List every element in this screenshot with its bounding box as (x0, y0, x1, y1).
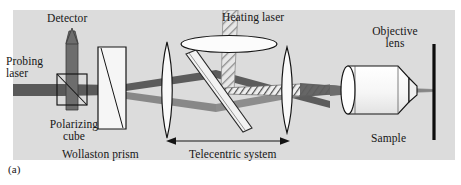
label-objective-lens-line1: Objective (363, 25, 427, 37)
label-detector: Detector (47, 12, 87, 24)
label-polarizing-cube-line1: Polarizing (33, 118, 115, 130)
label-heating-laser: Heating laser (222, 11, 284, 23)
wollaston-prism[interactable] (98, 47, 126, 129)
label-probing-laser-line2: laser (6, 67, 43, 79)
label-probing-laser-line1: Probing (6, 55, 43, 67)
label-sample: Sample (371, 132, 406, 144)
detector[interactable] (66, 28, 78, 110)
panel-label: (a) (8, 164, 21, 176)
label-probing-laser: Probing laser (6, 55, 43, 79)
label-polarizing-cube: Polarizing cube (33, 118, 115, 142)
label-polarizing-cube-line2: cube (33, 130, 115, 142)
label-telecentric-system: Telecentric system (189, 148, 277, 160)
label-objective-lens: Objective lens (363, 25, 427, 49)
figure-optical-setup: Detector Probing laser Heating laser Pol… (0, 0, 461, 185)
heating-laser-lens[interactable] (181, 36, 277, 53)
probing-laser-beam (13, 84, 112, 96)
label-objective-lens-line2: lens (363, 37, 427, 49)
label-wollaston-prism: Wollaston prism (62, 148, 139, 160)
